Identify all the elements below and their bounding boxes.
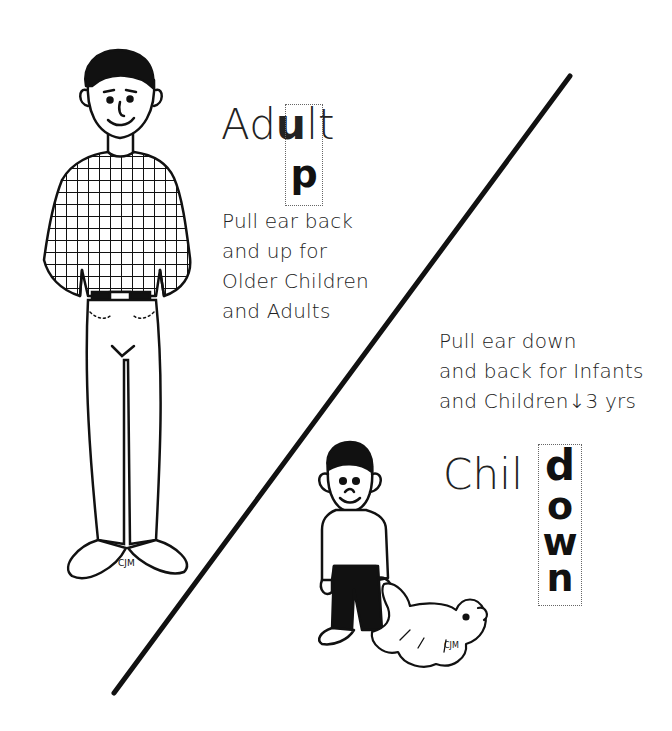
child-down-box: d o w n: [538, 444, 582, 606]
child-vertical-letter-o: o: [539, 491, 581, 521]
child-instruction-line: and back for Infants: [439, 356, 644, 386]
child-instructions: Pull ear down and back for Infants and C…: [439, 326, 644, 416]
adult-vertical-letter-p: p: [286, 159, 322, 189]
adult-pants: [87, 300, 161, 544]
child-title-prefix: Chil: [443, 450, 523, 499]
child-vertical-letter-w: w: [539, 527, 581, 557]
adult-instruction-line: and up for: [222, 236, 369, 266]
plaid-pattern: [40, 150, 196, 298]
child-vertical-letter-d: d: [539, 451, 581, 481]
adult-up-box: p: [285, 104, 323, 206]
adult-instruction-line: and Adults: [222, 296, 369, 326]
adult-signature: CJM: [118, 558, 135, 568]
child-vertical-letter-n: n: [539, 563, 581, 593]
child-title: Chil: [443, 454, 523, 496]
adult-instruction-line: Pull ear back: [222, 206, 369, 236]
child-figure: [319, 442, 391, 644]
teddy-bear: [372, 583, 487, 666]
adult-instruction-line: Older Children: [222, 266, 369, 296]
child-signature: CJM: [444, 641, 459, 650]
adult-shoe-right: [128, 540, 187, 573]
child-instruction-line: Pull ear down: [439, 326, 644, 356]
child-instruction-line: and Children↓3 yrs: [439, 386, 644, 416]
adult-title-prefix: Ad: [221, 100, 276, 149]
child-pants: [332, 566, 382, 630]
adult-instructions: Pull ear back and up for Older Children …: [222, 206, 369, 326]
